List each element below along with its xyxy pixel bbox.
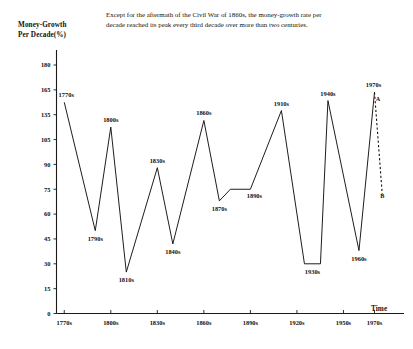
point-label-1890s: 1890s: [247, 192, 263, 199]
x-tick-label-1950s: 1950s: [336, 319, 352, 326]
y-tick-label-60: 60: [44, 210, 50, 217]
x-tick-label-1860s: 1860s: [196, 319, 212, 326]
y-tick-label-105: 105: [41, 136, 51, 143]
point-label-1860s: 1860s: [196, 109, 212, 116]
point-label-1970s: 1970s: [366, 81, 382, 88]
y-tick-label-15: 15: [44, 285, 50, 292]
point-label-1790s: 1790s: [88, 235, 104, 242]
y-tick-label-165: 165: [41, 86, 51, 93]
y-tick-label-180: 180: [41, 61, 51, 68]
x-tick-label-1920s: 1920s: [289, 319, 305, 326]
point-label-1940s: 1940s: [320, 90, 336, 97]
point-label-1910s: 1910s: [274, 100, 290, 107]
y-axis-tick-labels: 0153045607590105135165180: [41, 61, 51, 316]
point-label-1800s: 1800s: [103, 116, 119, 123]
x-axis-tick-labels: 1770s1800s1830s1860s1890s1920s1950s1970s: [57, 319, 383, 326]
chart-figure: Money-Growth Per Decade(%) Except for th…: [0, 0, 413, 349]
data-point-labels: 1770s1790s1800s1810s1830s1840s1860s1870s…: [59, 81, 382, 283]
projection-dashed-line: [374, 92, 382, 194]
annotation-labels: AB: [376, 95, 385, 199]
y-tick-label-75: 75: [44, 186, 50, 193]
x-tick-label-1830s: 1830s: [150, 319, 166, 326]
y-tick-label-90: 90: [44, 161, 50, 168]
point-label-1830s: 1830s: [150, 157, 166, 164]
point-label-1930s: 1930s: [305, 268, 321, 275]
point-label-1770s: 1770s: [59, 91, 75, 98]
x-tick-label-1800s: 1800s: [103, 319, 119, 326]
y-tick-label-30: 30: [44, 260, 50, 267]
y-tick-label-135: 135: [41, 111, 51, 118]
x-tick-label-1770s: 1770s: [57, 319, 73, 326]
annotation-label-B: B: [380, 192, 384, 199]
x-axis: 1770s1800s1830s1860s1890s1920s1950s1970s: [57, 310, 405, 326]
y-axis: 0153045607590105135165180: [41, 50, 57, 317]
point-label-1870s: 1870s: [212, 205, 228, 212]
x-tick-label-1970s: 1970s: [367, 319, 383, 326]
y-tick-label-0: 0: [47, 310, 50, 317]
point-label-1840s: 1840s: [165, 248, 181, 255]
chart-plot-area: 0153045607590105135165180 1770s1800s1830…: [0, 0, 413, 349]
x-tick-label-1890s: 1890s: [243, 319, 259, 326]
y-tick-label-45: 45: [44, 235, 50, 242]
point-label-1960s: 1960s: [351, 255, 367, 262]
annotation-label-A: A: [376, 95, 381, 102]
point-label-1810s: 1810s: [119, 276, 135, 283]
